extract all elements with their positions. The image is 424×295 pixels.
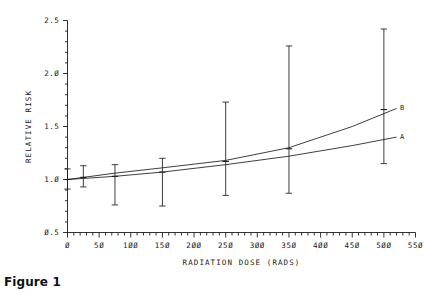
x-tick-label: 55Ø bbox=[408, 241, 423, 250]
x-tick-label: 45Ø bbox=[345, 241, 360, 250]
error-bars bbox=[64, 29, 387, 206]
x-tick-label: 25Ø bbox=[218, 241, 233, 250]
chart-canvas: Ø.51.Ø1.52.Ø2.5 Ø5Ø1ØØ15Ø2ØØ25Ø3ØØ35Ø4ØØ… bbox=[0, 0, 424, 270]
x-tick-label: 2ØØ bbox=[186, 241, 201, 250]
y-axis: Ø.51.Ø1.52.Ø2.5 bbox=[44, 16, 67, 237]
curve-b bbox=[68, 108, 397, 179]
y-tick-label: 2.Ø bbox=[44, 69, 59, 78]
fitted-curves: AB bbox=[68, 104, 406, 180]
y-tick-label: Ø.5 bbox=[44, 228, 59, 237]
x-tick-label: 5Ø bbox=[94, 241, 104, 250]
x-tick-label: 5ØØ bbox=[376, 241, 391, 250]
x-axis: Ø5Ø1ØØ15Ø2ØØ25Ø3ØØ35Ø4ØØ45Ø5ØØ55Ø bbox=[65, 233, 423, 250]
x-tick-label: Ø bbox=[65, 241, 70, 250]
x-tick-label: 15Ø bbox=[155, 241, 170, 250]
x-axis-title: RADIATION DOSE (RADS) bbox=[183, 258, 301, 267]
curve-label-b: B bbox=[400, 104, 404, 112]
y-axis-title: RELATIVE RISK bbox=[24, 90, 33, 163]
figure-caption: Figure 1 bbox=[4, 275, 61, 289]
y-tick-label: 1.5 bbox=[44, 122, 59, 131]
y-tick-label: 1.Ø bbox=[44, 175, 59, 184]
figure-container: Ø.51.Ø1.52.Ø2.5 Ø5Ø1ØØ15Ø2ØØ25Ø3ØØ35Ø4ØØ… bbox=[0, 0, 424, 295]
x-tick-label: 3ØØ bbox=[250, 241, 265, 250]
y-tick-label: 2.5 bbox=[44, 16, 59, 25]
x-tick-label: 35Ø bbox=[281, 241, 296, 250]
x-tick-label: 1ØØ bbox=[123, 241, 138, 250]
curve-label-a: A bbox=[400, 133, 405, 141]
x-tick-label: 4ØØ bbox=[313, 241, 328, 250]
